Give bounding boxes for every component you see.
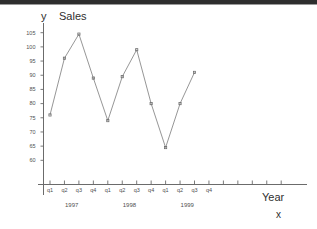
x-axis-tick-label: q4 [144,187,158,193]
x-axis-tick-label: q4 [86,187,100,193]
x-axis-tick-label: q4 [202,187,216,193]
y-axis-tick-label: 80 [20,100,36,106]
y-axis-tick-label: 95 [20,58,36,64]
data-series-line [50,34,195,147]
x-axis-tick-label: q2 [173,187,187,193]
y-axis-tick-label: 100 [20,44,36,50]
x-axis-tick-label: q1 [101,187,115,193]
x-axis-group-label: 1999 [172,202,202,208]
x-axis-group-label: 1997 [57,202,87,208]
chart-page: y Sales Year x 1051009590858075706560 q1… [0,0,317,229]
y-axis-tick-label: 75 [20,115,36,121]
chart-plot-svg [0,5,317,229]
x-axis-tick-label: q2 [57,187,71,193]
x-axis-tick-label: q2 [115,187,129,193]
y-axis-tick-label: 105 [20,30,36,36]
y-axis-tick-label: 60 [20,157,36,163]
y-axis-tick-label: 65 [20,143,36,149]
x-axis-tick-label: q1 [43,187,57,193]
data-point-markers [49,33,196,149]
x-axis-tick-label: q3 [188,187,202,193]
y-axis-tick-label: 85 [20,86,36,92]
x-axis-tick-label: q3 [72,187,86,193]
x-axis-ticks [50,181,281,185]
line-chart: y Sales Year x 1051009590858075706560 q1… [0,5,317,229]
x-axis-tick-label: q3 [130,187,144,193]
y-axis-tick-label: 70 [20,129,36,135]
x-axis-group-label: 1998 [114,202,144,208]
y-axis-tick-label: 90 [20,72,36,78]
x-axis-tick-label: q1 [159,187,173,193]
